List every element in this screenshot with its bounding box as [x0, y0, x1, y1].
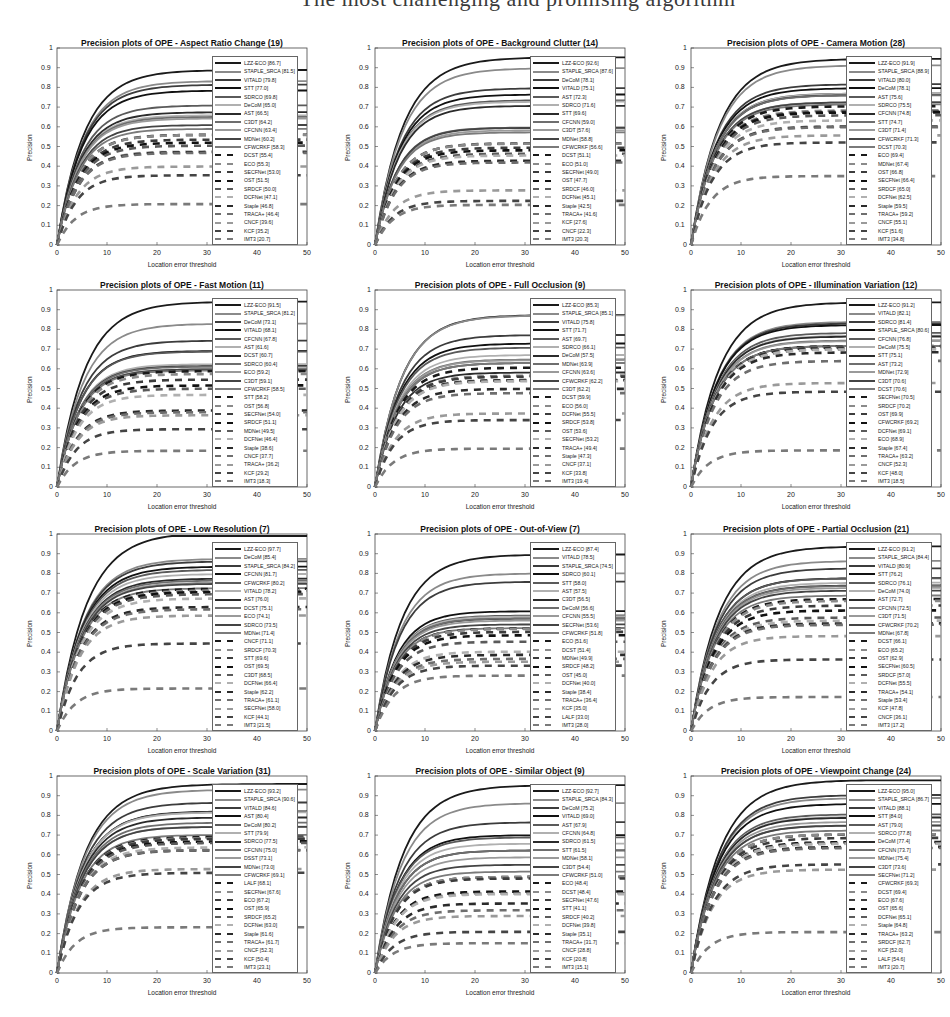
legend-label: DeCoM [57.5] [562, 351, 594, 359]
x-tick-label: 20 [787, 977, 795, 984]
legend-item: OST [51.5] [215, 176, 295, 184]
y-tick-label: 0.6 [359, 851, 369, 858]
y-tick-label: 0 [367, 969, 371, 976]
legend-item: CFCNN [63.6] [533, 368, 613, 376]
legend-item: DeCoM [85.4] [215, 553, 295, 561]
legend-line-swatch [849, 129, 875, 131]
legend-line-swatch [533, 557, 559, 559]
y-tick-label: 1 [683, 44, 687, 51]
legend-label: STT [58.0] [562, 579, 586, 587]
legend-item: SECFNet [47.6] [533, 896, 613, 904]
legend-item: VITALD [80.0] [849, 76, 929, 84]
legend-line-swatch [849, 171, 867, 173]
chart-legend: LZZ-ECO [87.4]VITALD [78.5]STAPLE_SRCA [… [530, 542, 616, 731]
y-tick-label: 0.1 [41, 949, 51, 956]
precision-plot-panel: Precision plots of OPE - Similar Object … [338, 766, 653, 1011]
legend-label: Staple [62.2] [244, 688, 273, 696]
legend-line-swatch [849, 548, 875, 550]
legend-line-swatch [533, 724, 551, 726]
y-tick-label: 1 [683, 772, 687, 779]
legend-label: IMT3 [23.1] [244, 963, 270, 971]
legend-line-swatch [215, 849, 241, 851]
y-tick-label: 0.8 [675, 569, 685, 576]
legend-label: SRDCF [46.0] [562, 185, 594, 193]
legend-label: SRDCF [65.2] [244, 913, 276, 921]
legend-line-swatch [849, 866, 875, 868]
legend-label: VITALD [69.0] [562, 812, 594, 820]
x-tick-label: 50 [303, 249, 311, 256]
legend-item: VITALD [79.8] [215, 76, 295, 84]
y-tick-label: 0 [683, 483, 687, 490]
legend-item: CFCNN [55.5] [533, 612, 613, 620]
x-tick-label: 20 [153, 735, 161, 742]
legend-item: TRACA+ [54.1] [849, 688, 929, 696]
legend-item: STAPLE_SRCA [87.6] [533, 67, 613, 75]
legend-item: DSST [73.1] [215, 854, 295, 862]
legend-line-swatch [849, 590, 875, 592]
legend-item: VITALD [82.1] [849, 309, 929, 317]
legend-line-swatch [215, 674, 233, 676]
legend-label: SDRCO [61.5] [562, 837, 595, 845]
legend-line-swatch [215, 599, 241, 601]
legend-item: IMT3 [34.8] [849, 235, 929, 243]
y-tick-label: 0.7 [359, 831, 369, 838]
legend-label: SECFNet [66.4] [878, 176, 914, 184]
y-tick-label: 0.3 [675, 182, 685, 189]
x-tick-label: 20 [153, 249, 161, 256]
legend-line-swatch [849, 691, 867, 693]
legend-line-swatch [533, 691, 551, 693]
legend-label: SDRCO [60.4] [244, 360, 277, 368]
legend-line-swatch [215, 824, 241, 826]
legend-line-swatch [533, 657, 551, 659]
legend-item: VITALD [88.1] [849, 804, 929, 812]
legend-label: Staple [59.5] [878, 202, 907, 210]
legend-item: DCST [51.4] [533, 646, 613, 654]
legend-label: ECO [67.6] [878, 896, 904, 904]
y-tick-label: 0.6 [675, 365, 685, 372]
legend-label: CFCNN [63.4] [244, 126, 277, 134]
x-tick-label: 40 [253, 977, 261, 984]
legend-item: DCFNet [62.5] [849, 193, 929, 201]
x-tick-label: 50 [621, 249, 629, 256]
legend-label: Staple [35.1] [562, 930, 591, 938]
cropped-caption-text: The most challenging and promising algor… [0, 0, 944, 22]
legend-line-swatch [849, 87, 875, 89]
legend-item: SECFNet [53.2] [533, 435, 613, 443]
legend-line-swatch [215, 691, 233, 693]
legend-item: SDRCO [60.1] [533, 570, 613, 578]
y-tick-label: 0.7 [675, 831, 685, 838]
legend-line-swatch [849, 599, 875, 601]
legend-line-swatch [533, 388, 559, 390]
legend-line-swatch [215, 188, 233, 190]
legend-item: C3DT [68.5] [215, 671, 295, 679]
x-tick-label: 40 [571, 977, 579, 984]
x-tick-label: 50 [303, 977, 311, 984]
legend-label: SECFNet [67.6] [244, 888, 280, 896]
y-tick-label: 0.9 [675, 792, 685, 799]
legend-item: TRACA+ [49.4] [533, 444, 613, 452]
legend-label: DeCoM [78.1] [878, 84, 910, 92]
legend-label: CFWCRKF [62.2] [562, 377, 602, 385]
x-tick-label: 0 [55, 491, 59, 498]
legend-label: CFCNN [74.8] [878, 109, 911, 117]
legend-label: LZZ-ECO [95.0] [878, 787, 915, 795]
legend-line-swatch [849, 716, 867, 718]
legend-line-swatch [215, 438, 233, 440]
y-tick-label: 0.4 [41, 648, 51, 655]
legend-item: CFWCRKF [69.3] [849, 879, 929, 887]
y-tick-label: 0.3 [41, 182, 51, 189]
legend-item: AST [75.6] [849, 93, 929, 101]
x-tick-label: 50 [303, 491, 311, 498]
legend-line-swatch [849, 966, 867, 968]
legend-item: LZZ-ECO [92.7] [533, 787, 613, 795]
legend-label: DCST [51.1] [562, 151, 590, 159]
legend-line-swatch [849, 950, 867, 952]
legend-line-swatch [849, 430, 867, 432]
legend-line-swatch [533, 138, 559, 140]
legend-label: Staple [38.4] [562, 688, 591, 696]
legend-item: VITALD [78.5] [533, 553, 613, 561]
legend-item: KCF [48.0] [849, 469, 929, 477]
y-tick-label: 0 [49, 727, 53, 734]
legend-item: CNCF [55.1] [849, 218, 929, 226]
x-tick-label: 20 [471, 977, 479, 984]
